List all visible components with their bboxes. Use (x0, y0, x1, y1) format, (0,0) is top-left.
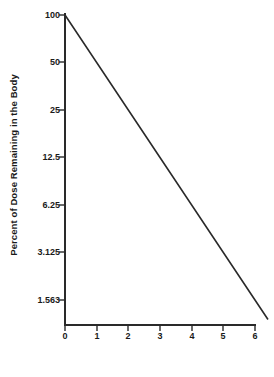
chart-figure: Percent of Dose Remaining in the Body 10… (0, 0, 274, 377)
data-series-line (65, 15, 268, 319)
plot-area (0, 0, 274, 377)
